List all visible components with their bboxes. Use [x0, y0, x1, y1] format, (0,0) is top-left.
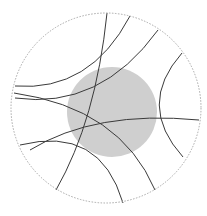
poincare-disk-diagram: [0, 0, 207, 216]
geodesic-arc-d: [159, 53, 183, 157]
